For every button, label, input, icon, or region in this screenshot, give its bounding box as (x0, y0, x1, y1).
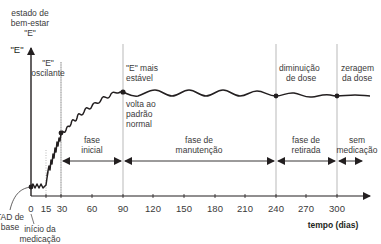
tick-label-150: 150 (176, 203, 192, 214)
annotation-oscilante-line2: oscilante (31, 68, 65, 78)
phase-label-inicial-line1: fase (84, 135, 100, 145)
point-day30 (59, 131, 64, 136)
annotation-inicio-line1: início da (24, 224, 56, 234)
point-day300 (335, 94, 340, 99)
inicio-pointer (31, 214, 34, 224)
phase-label-sem-line2: medicação (336, 145, 377, 155)
tick-label-120: 120 (145, 203, 161, 214)
phase-label-sem-line1: sem (349, 135, 365, 145)
tick-label-180: 180 (207, 203, 223, 214)
wellbeing-timeline-chart: 0 15 30 60 90 120 150 180 210 240 270 30… (0, 0, 381, 244)
phase-label-manutencao-line1: fase de (185, 135, 213, 145)
tick-label-300: 300 (329, 203, 345, 214)
annotation-tad-line2: base (1, 222, 20, 232)
phase-label-manutencao-line2: manutenção (176, 145, 223, 155)
tick-label-240: 240 (268, 203, 284, 214)
annotation-zeragem-line1: zeragem (341, 63, 374, 73)
y-axis-label-line1: estado de (11, 8, 49, 18)
y-axis-marker: "E" (10, 44, 23, 55)
phase-label-retirada-line1: fase de (292, 135, 320, 145)
annotation-diminuicao-line2: de dose (286, 73, 317, 83)
annotation-volta-line2: padrão (126, 109, 153, 119)
annotation-estavel-line2: estável (126, 73, 153, 83)
tick-label-60: 60 (87, 203, 98, 214)
annotation-volta-line3: normal (126, 119, 152, 129)
phase-label-retirada-line2: retirada (292, 145, 321, 155)
phase-label-inicial-line2: inicial (81, 145, 102, 155)
tick-label-15: 15 (41, 203, 52, 214)
annotation-volta-line1: volta ao (126, 99, 156, 109)
tick-label-270: 270 (298, 203, 314, 214)
annotation-tad-line1: TAD de (0, 212, 24, 222)
annotation-diminuicao-line1: diminuição (279, 63, 320, 73)
tick-label-90: 90 (118, 203, 129, 214)
annotation-oscilante-line1: "E" (42, 58, 54, 68)
tick-label-30: 30 (57, 203, 68, 214)
point-day240 (274, 94, 279, 99)
x-axis-label: tempo (dias) (308, 220, 359, 230)
y-axis-label-line2: bem-estar (11, 18, 49, 28)
point-day90 (120, 89, 125, 94)
annotation-estavel-line1: "E" mais (126, 63, 158, 73)
point-day0 (29, 185, 34, 190)
tick-label-0: 0 (28, 203, 33, 214)
annotation-zeragem-line2: da dose (342, 73, 373, 83)
y-axis-label-line3: "E" (24, 28, 36, 38)
tick-label-210: 210 (237, 203, 253, 214)
annotation-inicio-line2: medicação (19, 234, 60, 244)
